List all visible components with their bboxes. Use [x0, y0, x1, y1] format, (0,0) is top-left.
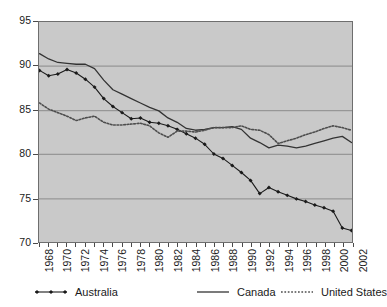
y-tick-label-85: 85 [19, 104, 31, 114]
x-tick-label-1968: 1968 [43, 249, 55, 272]
y-tick-label-70: 70 [19, 237, 31, 247]
data-point [157, 121, 161, 125]
data-point [276, 190, 280, 194]
x-tick-label-1998: 1998 [320, 249, 332, 272]
x-tick-mark [48, 243, 49, 247]
data-point [340, 226, 344, 230]
x-tick-mark [334, 243, 335, 247]
data-point [350, 229, 352, 233]
legend-label-canada: Canada [237, 286, 276, 298]
series-layer [39, 54, 352, 233]
y-tick-label-80: 80 [19, 148, 31, 158]
legend-swatch-united-states-icon [280, 286, 314, 298]
y-tick-label-75: 75 [19, 193, 31, 203]
y-tick-label-95: 95 [19, 15, 31, 25]
x-tick-label-1976: 1976 [116, 249, 128, 272]
x-tick-mark [140, 243, 141, 247]
x-tick-label-1974: 1974 [98, 249, 110, 272]
x-tick-label-1972: 1972 [79, 249, 91, 272]
legend-item-canada[interactable]: Canada [196, 283, 276, 301]
x-tick-mark [205, 243, 206, 247]
plot-area [38, 21, 353, 243]
x-tick-mark [260, 243, 261, 247]
x-tick-mark [251, 243, 252, 247]
x-tick-label-1980: 1980 [153, 249, 165, 272]
x-tick-label-1990: 1990 [246, 249, 258, 272]
legend-swatch-australia-icon [34, 286, 68, 298]
data-point [331, 209, 335, 213]
x-tick-label-1992: 1992 [264, 249, 276, 272]
series-australia [39, 68, 352, 233]
y-axis: 707580859095 [0, 0, 38, 264]
x-tick-mark [85, 243, 86, 247]
data-point [65, 68, 69, 72]
x-tick-mark [325, 243, 326, 247]
chart-legend: AustraliaCanadaUnited States [0, 283, 373, 303]
x-tick-mark [343, 243, 344, 247]
data-point [148, 120, 152, 124]
x-tick-mark [131, 243, 132, 247]
data-point [285, 193, 289, 197]
x-tick-mark [288, 243, 289, 247]
plot-svg [39, 22, 352, 242]
legend-label-australia: Australia [75, 286, 118, 298]
x-tick-label-1978: 1978 [135, 249, 147, 272]
x-tick-mark [159, 243, 160, 247]
x-tick-mark [353, 243, 354, 247]
x-tick-mark [75, 243, 76, 247]
data-point [56, 72, 60, 76]
x-tick-label-1986: 1986 [209, 249, 221, 272]
x-tick-mark [57, 243, 58, 247]
legend-swatch-canada-icon [196, 286, 230, 298]
x-tick-mark [168, 243, 169, 247]
x-tick-mark [269, 243, 270, 247]
data-point [322, 206, 326, 210]
x-tick-label-1996: 1996 [301, 249, 313, 272]
data-point [184, 132, 188, 136]
x-tick-mark [316, 243, 317, 247]
series-line [39, 70, 351, 231]
y-tick-label-90: 90 [19, 59, 31, 69]
x-tick-mark [214, 243, 215, 247]
legend-item-united-states[interactable]: United States [280, 283, 387, 301]
x-tick-mark [232, 243, 233, 247]
legend-label-united-states: United States [321, 286, 387, 298]
x-tick-label-1970: 1970 [61, 249, 73, 272]
x-tick-mark [306, 243, 307, 247]
legend-item-australia[interactable]: Australia [34, 283, 118, 301]
x-tick-mark [149, 243, 150, 247]
series-canada [39, 54, 351, 148]
x-tick-mark [122, 243, 123, 247]
series-line [39, 54, 351, 148]
x-tick-mark [297, 243, 298, 247]
data-point [313, 203, 317, 207]
x-tick-label-2000: 2000 [338, 249, 350, 272]
x-tick-mark [223, 243, 224, 247]
x-tick-mark [177, 243, 178, 247]
x-tick-mark [39, 243, 40, 247]
data-point [166, 124, 170, 128]
data-point [294, 197, 298, 201]
x-tick-mark [242, 243, 243, 247]
x-tick-mark [112, 243, 113, 247]
data-point [138, 116, 142, 120]
x-tick-mark [103, 243, 104, 247]
x-tick-label-1984: 1984 [190, 249, 202, 272]
data-point [304, 200, 308, 204]
x-tick-label-1982: 1982 [172, 249, 184, 272]
x-tick-mark [186, 243, 187, 247]
x-tick-mark [279, 243, 280, 247]
x-tick-label-2002: 2002 [357, 249, 369, 272]
x-tick-label-1994: 1994 [283, 249, 295, 272]
x-tick-mark [66, 243, 67, 247]
x-tick-mark [94, 243, 95, 247]
x-tick-mark [196, 243, 197, 247]
x-tick-label-1988: 1988 [227, 249, 239, 272]
